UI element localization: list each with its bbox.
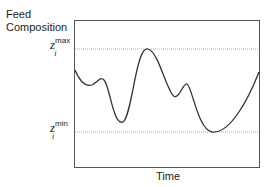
plot-frame	[75, 21, 260, 168]
composition-curve	[75, 49, 259, 132]
x-axis-label: Time	[156, 170, 180, 182]
plot-area	[0, 0, 271, 187]
